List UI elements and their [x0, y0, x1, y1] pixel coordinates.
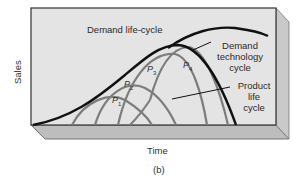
box-right-face — [276, 8, 289, 139]
label-line: cycle — [210, 62, 270, 73]
product-label-p1: P1 — [112, 95, 121, 107]
label-line: technology — [210, 51, 270, 62]
demand-life-cycle-label: Demand life-cycle — [87, 24, 163, 35]
demand-technology-cycle-label: Demand technology cycle — [210, 40, 270, 73]
product-label-p4: P4 — [183, 60, 192, 72]
y-axis-label: Sales — [12, 60, 23, 84]
panel-label: (b) — [153, 164, 165, 175]
x-axis-label: Time — [147, 145, 168, 156]
label-line: Demand — [210, 40, 270, 51]
product-life-cycle-label: Product life cycle — [229, 80, 279, 113]
product-label-p3: P3 — [147, 64, 156, 76]
product-label-p2: P2 — [124, 79, 133, 91]
label-line: cycle — [229, 102, 279, 113]
label-line: Product — [229, 80, 279, 91]
label-line: life — [229, 91, 279, 102]
box-bottom-face — [31, 125, 289, 139]
